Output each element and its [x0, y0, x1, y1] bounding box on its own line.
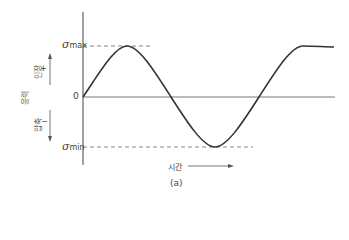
arrow-up-icon: [48, 53, 52, 59]
origin-label: 0: [73, 91, 79, 101]
stress-curve: [83, 46, 334, 147]
sigma-min-label: σmin: [62, 140, 85, 153]
stress-axis-label: 응력: [19, 91, 30, 105]
tension-sign: +: [40, 64, 47, 73]
arrow-right-icon: [228, 164, 234, 168]
caption: (a): [170, 178, 183, 188]
arrow-down-icon: [48, 136, 52, 142]
sigma-max-label: σmax: [62, 38, 87, 51]
time-label: 시간: [168, 161, 182, 172]
compression-sign: −: [41, 117, 48, 126]
